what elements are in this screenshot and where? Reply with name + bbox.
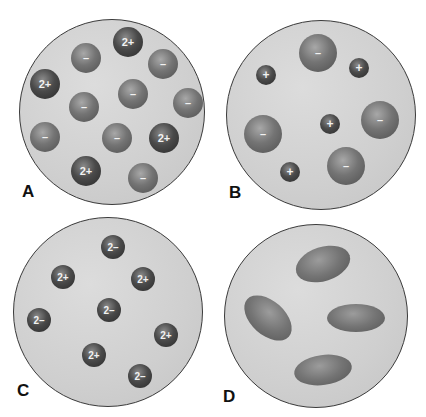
molecule-blob [327, 304, 385, 332]
ion-particle: – [327, 147, 365, 185]
ion-particle: 2+ [71, 156, 101, 186]
ion-particle: 2– [101, 235, 125, 259]
ion-particle: 2+ [149, 123, 179, 153]
ion-particle: – [71, 43, 101, 73]
panel-label-a: A [22, 182, 34, 202]
ion-particle: + [320, 114, 340, 134]
ion-particle: – [128, 163, 158, 193]
panel-label-d: D [223, 387, 235, 407]
ion-particle: – [69, 92, 99, 122]
ion-particle: 2+ [131, 267, 155, 291]
ion-particle: – [118, 79, 148, 109]
ion-particle: – [361, 101, 399, 139]
ion-particle: – [148, 49, 178, 79]
ion-particle: – [102, 123, 132, 153]
ion-particle: 2+ [82, 343, 106, 367]
ion-particle: 2– [97, 298, 121, 322]
ion-particle: – [173, 88, 203, 118]
ion-particle: – [244, 115, 282, 153]
panel-label-b: B [229, 183, 241, 203]
ion-particle: + [256, 65, 276, 85]
ion-particle: 2– [128, 364, 152, 388]
ion-particle: 2+ [113, 27, 143, 57]
ion-particle: + [280, 162, 300, 182]
ion-particle: 2+ [51, 265, 75, 289]
ion-particle: – [30, 122, 60, 152]
ion-particle: 2+ [30, 69, 60, 99]
ion-particle: – [299, 34, 337, 72]
ion-particle: 2+ [154, 323, 178, 347]
ion-particle: 2– [27, 308, 51, 332]
ion-particle: + [349, 58, 369, 78]
panel-label-c: C [17, 381, 29, 401]
